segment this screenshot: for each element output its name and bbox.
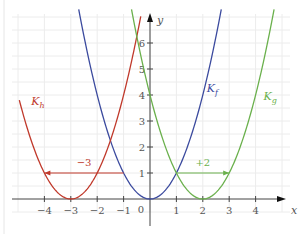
y-axis-label: y [156,14,164,27]
shift-label: −3 [77,157,92,168]
curve-label-subscript: g [272,96,277,105]
curve-label-k-h: Kh [30,95,44,110]
x-axis-label: x [291,204,298,217]
x-tick-label: −2 [90,205,105,216]
x-tick-label: −1 [116,205,131,216]
x-tick-label: 2 [200,205,206,216]
origin-label: 0 [138,204,144,215]
y-tick-label: 3 [139,116,145,127]
chart: −4−3−2−112341234560xy −3+2 KfKhKg [0,0,302,234]
x-tick-label: 1 [173,205,179,216]
x-tick-label: −4 [37,205,52,216]
curves [19,9,274,199]
x-tick-label: −3 [63,205,78,216]
grid [12,14,290,212]
x-tick-label: 3 [226,205,232,216]
axes: −4−3−2−112341234560xy [12,13,298,226]
curve-label-k-f: Kf [206,82,220,97]
curve-label-k-g: Kg [263,90,277,105]
curve-label-subscript: h [39,101,44,110]
y-tick-label: 2 [139,142,145,153]
y-tick-label: 4 [139,90,145,101]
shift-label: +2 [195,157,210,168]
curve-label-subscript: f [214,88,220,97]
y-tick-label: 1 [139,168,145,179]
x-tick-label: 4 [252,205,258,216]
